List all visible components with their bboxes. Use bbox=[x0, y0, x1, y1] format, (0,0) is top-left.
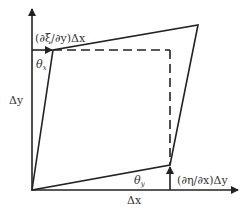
shear-deformation-diagram: (∂ξ/∂y)Δx θx Δy θy (∂η/∂x)Δy Δx bbox=[0, 0, 248, 214]
top-shift-label: (∂ξ/∂y)Δx bbox=[35, 32, 86, 45]
theta-x-label: θx bbox=[36, 58, 47, 72]
delta-y-label: Δy bbox=[9, 94, 24, 107]
theta-y-label: θy bbox=[134, 174, 146, 188]
right-shift-label: (∂η/∂x)Δy bbox=[177, 174, 228, 187]
delta-x-label: Δx bbox=[127, 194, 142, 207]
